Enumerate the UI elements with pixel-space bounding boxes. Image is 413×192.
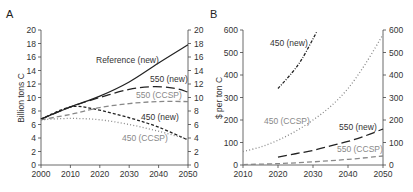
y-tick-label: 10 [27, 93, 37, 103]
annotation-450-new: 450 (new) [141, 112, 179, 122]
x-tick-label: 2030 [120, 169, 139, 179]
annotation-550-ccsp: 550 (CCSP) [136, 90, 182, 100]
y-tick-label-right: 16 [194, 52, 204, 62]
y-tick-label-right: 100 [389, 138, 403, 148]
panel-a-y-axis-label: Billion tons C [16, 73, 26, 123]
annotation-450-ccsp: 450 (CCSP) [122, 133, 168, 143]
y-tick-label: 8 [31, 106, 36, 116]
x-tick-label: 2040 [339, 169, 358, 179]
annotation-b-550-new: 550 (new) [339, 122, 377, 132]
y-tick-label: 6 [31, 120, 36, 130]
y-tick-label-right: 14 [194, 66, 204, 76]
annotation-b-550-ccsp: 550 (CCSP) [337, 144, 383, 154]
y-tick-label: 300 [224, 93, 238, 103]
panel-b-y-axis-label: $ per ton C [214, 77, 224, 119]
panel-b-label: B [210, 8, 217, 20]
y-tick-label: 400 [224, 70, 238, 80]
y-tick-label: 2 [31, 147, 36, 157]
x-tick-label: 2000 [32, 169, 51, 179]
series-550-ccsp [243, 156, 383, 165]
y-tick-label-right: 6 [194, 120, 199, 130]
annotation-reference-new: Reference (new) [96, 55, 159, 65]
y-tick-label-right: 2 [194, 147, 199, 157]
y-tick-label: 20 [27, 25, 37, 35]
x-tick-label: 2010 [61, 169, 80, 179]
x-tick-label: 2010 [234, 169, 253, 179]
y-tick-label-right: 20 [194, 25, 204, 35]
panel-b: B 00100100200200300300400400500500600600… [210, 8, 403, 179]
y-tick-label-right: 10 [194, 93, 204, 103]
y-tick-label: 12 [27, 79, 37, 89]
series-450-ccsp [243, 35, 383, 152]
annotation-b-450-ccsp: 450 (CCSP) [264, 116, 310, 126]
chart-figure: A 00224466881010121214141616181820202000… [0, 0, 413, 192]
x-tick-label: 2050 [374, 169, 393, 179]
x-tick-label: 2020 [90, 169, 109, 179]
y-tick-label-right: 500 [389, 48, 403, 58]
y-tick-label-right: 8 [194, 106, 199, 116]
y-tick-label-right: 18 [194, 39, 204, 49]
x-tick-label: 2020 [269, 169, 288, 179]
annotation-550-new: 550 (new) [150, 74, 188, 84]
y-tick-label: 14 [27, 66, 37, 76]
x-tick-label: 2030 [304, 169, 323, 179]
y-tick-label-right: 4 [194, 133, 199, 143]
y-tick-label: 500 [224, 48, 238, 58]
y-tick-label: 16 [27, 52, 37, 62]
y-tick-label-right: 300 [389, 93, 403, 103]
y-tick-label: 18 [27, 39, 37, 49]
y-tick-label: 4 [31, 133, 36, 143]
annotation-b-450-new: 450 (new) [270, 38, 308, 48]
x-tick-label: 2040 [149, 169, 168, 179]
y-tick-label-right: 400 [389, 70, 403, 80]
y-tick-label: 200 [224, 115, 238, 125]
y-tick-label: 600 [224, 25, 238, 35]
y-tick-label: 100 [224, 138, 238, 148]
y-tick-label-right: 200 [389, 115, 403, 125]
x-tick-label: 2050 [179, 169, 198, 179]
y-tick-label-right: 12 [194, 79, 204, 89]
y-tick-label-right: 600 [389, 25, 403, 35]
panel-a: A 00224466881010121214141616181820202000… [6, 8, 204, 179]
panel-b-axes: 0010010020020030030040040050050060060020… [224, 25, 404, 179]
panel-a-label: A [6, 8, 14, 20]
